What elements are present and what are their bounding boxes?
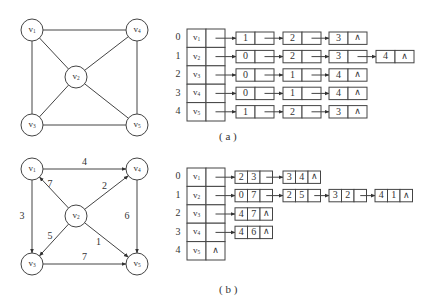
row-index: 0 <box>176 31 181 42</box>
row-index: 3 <box>176 87 181 98</box>
node-value: 2 <box>290 106 295 117</box>
row-index: 3 <box>176 226 181 237</box>
node-value: 3 <box>336 32 341 43</box>
node-value: 4 <box>239 226 244 237</box>
node-value: 1 <box>290 87 295 98</box>
row-index: 2 <box>176 68 181 79</box>
node-value: 1 <box>243 106 248 117</box>
node-value: 0 <box>239 189 244 200</box>
null-pointer: ∧ <box>311 171 318 181</box>
adjacency-list-a: 0v1123∧1v20234∧2v3014∧3v4014∧4v5123∧ <box>176 29 415 121</box>
node-value: 6 <box>251 226 256 237</box>
null-pointer: ∧ <box>403 190 410 200</box>
edge-weight: 7 <box>48 178 53 189</box>
edge-weight: 7 <box>82 251 87 262</box>
node-value: 0 <box>243 87 248 98</box>
graph-adjacency-figure: v1v2v3v4v5 43725167v1v2v3v4v5 0v1123∧1v2… <box>0 0 427 304</box>
node-value: 1 <box>391 189 396 200</box>
undirected-graph-a: v1v2v3v4v5 <box>21 19 148 136</box>
caption-b: ( b ) <box>219 283 237 295</box>
graph-edge <box>85 37 129 71</box>
node-value: 5 <box>299 189 304 200</box>
null-pointer: ∧ <box>401 51 408 61</box>
node-value: 2 <box>239 171 244 182</box>
edge-weight: 2 <box>102 180 107 191</box>
graph-edge <box>40 38 69 69</box>
node-value: 0 <box>243 69 248 80</box>
edge-weight: 3 <box>20 210 25 221</box>
graph-edge <box>85 84 129 118</box>
row-index: 2 <box>176 207 181 218</box>
node-value: 3 <box>251 171 256 182</box>
adjacency-list-b: 0v12334∧1v207253241∧2v347∧3v446∧4v5∧ <box>176 168 413 260</box>
row-index: 1 <box>176 189 181 200</box>
row-index: 0 <box>176 170 181 181</box>
edge-weight: 4 <box>82 156 87 167</box>
node-value: 2 <box>290 32 295 43</box>
node-value: 3 <box>336 50 341 61</box>
node-value: 4 <box>299 171 304 182</box>
graph-edge <box>39 85 68 117</box>
node-value: 2 <box>290 50 295 61</box>
node-value: 3 <box>336 106 341 117</box>
graph-edge <box>40 177 69 208</box>
directed-weighted-graph-b: 43725167v1v2v3v4v5 <box>20 156 149 275</box>
null-pointer: ∧ <box>354 87 361 97</box>
null-pointer: ∧ <box>263 226 270 236</box>
node-value: 4 <box>379 189 384 200</box>
node-value: 1 <box>243 32 248 43</box>
node-value: 0 <box>243 50 248 61</box>
node-value: 2 <box>345 189 350 200</box>
node-value: 2 <box>287 189 292 200</box>
edge-weight: 6 <box>125 210 130 221</box>
node-value: 4 <box>336 87 341 98</box>
node-value: 3 <box>287 171 292 182</box>
null-pointer: ∧ <box>354 69 361 79</box>
node-value: 4 <box>336 69 341 80</box>
node-value: 3 <box>333 189 338 200</box>
null-pointer: ∧ <box>263 208 270 218</box>
null-pointer: ∧ <box>212 245 219 255</box>
row-index: 4 <box>176 105 181 116</box>
null-pointer: ∧ <box>354 32 361 42</box>
figure-canvas: v1v2v3v4v5 43725167v1v2v3v4v5 0v1123∧1v2… <box>0 0 427 304</box>
null-pointer: ∧ <box>354 106 361 116</box>
node-value: 4 <box>239 208 244 219</box>
edge-weight: 5 <box>48 230 53 241</box>
node-value: 7 <box>251 189 256 200</box>
graph-edge <box>85 223 129 257</box>
caption-a: ( a ) <box>219 130 237 142</box>
graph-edge <box>39 224 68 256</box>
node-value: 1 <box>290 69 295 80</box>
node-value: 7 <box>251 208 256 219</box>
row-index: 1 <box>176 50 181 61</box>
row-index: 4 <box>176 244 181 255</box>
node-value: 4 <box>383 50 388 61</box>
edge-weight: 1 <box>96 236 101 247</box>
